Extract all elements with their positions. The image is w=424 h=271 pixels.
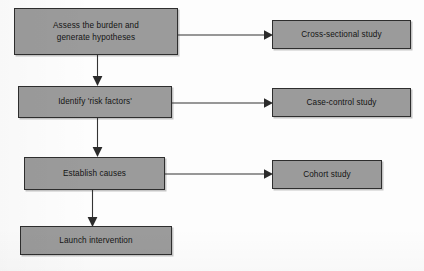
connector-identify-to-establish <box>90 118 106 158</box>
node-launch-intervention[interactable]: Launch intervention <box>20 226 172 255</box>
node-cohort-study[interactable]: Cohort study <box>272 160 382 189</box>
node-identify-risk-factors[interactable]: Identify 'risk factors' <box>18 86 172 118</box>
node-label: Cross-sectional study <box>297 29 385 40</box>
node-cross-sectional-study[interactable]: Cross-sectional study <box>272 20 411 49</box>
connector-identify-to-case-control <box>172 95 274 111</box>
node-label: Identify 'risk factors' <box>54 96 136 107</box>
node-label: Establish causes <box>59 168 130 179</box>
connector-establish-to-launch <box>85 190 101 228</box>
connector-establish-to-cohort <box>165 166 274 182</box>
node-label: Case-control study <box>302 97 380 108</box>
node-label: Cohort study <box>299 169 355 180</box>
flowchart-canvas: Assess the burden and generate hypothese… <box>0 0 424 271</box>
connector-assess-to-identify <box>90 55 106 87</box>
node-label: Launch intervention <box>55 235 136 246</box>
node-establish-causes[interactable]: Establish causes <box>24 157 165 190</box>
node-case-control-study[interactable]: Case-control study <box>272 88 411 117</box>
node-label: Assess the burden and generate hypothese… <box>49 20 143 42</box>
node-assess-burden[interactable]: Assess the burden and generate hypothese… <box>14 8 178 55</box>
connector-assess-to-cross-sectional <box>178 27 274 43</box>
